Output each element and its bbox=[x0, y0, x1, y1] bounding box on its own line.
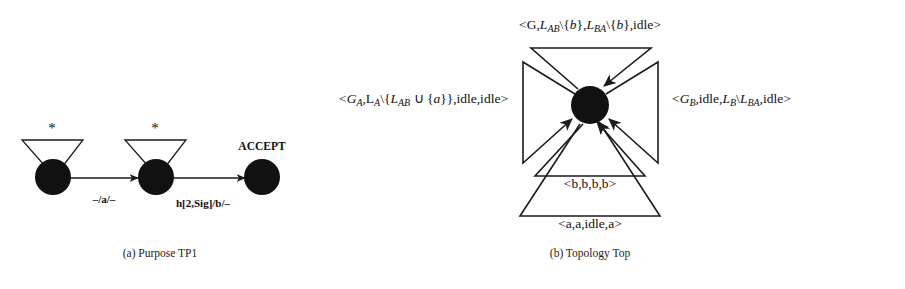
state-node-s1 bbox=[138, 159, 174, 195]
state-node-s2-accept bbox=[244, 159, 280, 195]
transition-label-top: <G,LAB\{b},LBA\{b},idle> bbox=[519, 17, 661, 34]
self-loop-label-state-1: * bbox=[151, 120, 159, 136]
panel-b-topology-top: <G,LAB\{b},LBA\{b},idle> <GA,LA\{LAB ∪ {… bbox=[339, 17, 791, 260]
panel-a-caption: (a) Purpose TP1 bbox=[123, 247, 198, 260]
topology-center-node bbox=[571, 86, 609, 124]
state-node-s0 bbox=[35, 159, 71, 195]
transition-label-left: <GA,LA\{LAB ∪ {a}},idle,idle> bbox=[339, 91, 508, 108]
self-loop-label-state-0: * bbox=[48, 120, 56, 136]
panel-a-purpose-tp1: * * –/a/– h[2,Sig]/b/– ACCEPT (a) bbox=[22, 120, 286, 260]
edge-label-s1-s2: h[2,Sig]/b/– bbox=[176, 197, 231, 209]
transition-label-bottom-inner: <b,b,b,b> bbox=[564, 176, 616, 191]
figure-svg: * * –/a/– h[2,Sig]/b/– ACCEPT (a) bbox=[0, 0, 905, 289]
panel-b-caption: (b) Topology Top bbox=[550, 247, 631, 260]
self-loop-left bbox=[523, 62, 575, 163]
transition-label-bottom-outer: <a,a,idle,a> bbox=[558, 216, 622, 231]
accept-label: ACCEPT bbox=[238, 140, 286, 152]
edge-label-s0-s1: –/a/– bbox=[92, 193, 116, 205]
edge-s0-s1: –/a/– bbox=[70, 178, 138, 205]
transition-label-right: <GB,idle,LB\LBA,idle> bbox=[672, 91, 791, 108]
edge-s1-s2: h[2,Sig]/b/– bbox=[172, 178, 245, 209]
figure-container: * * –/a/– h[2,Sig]/b/– ACCEPT (a) bbox=[0, 0, 905, 289]
self-loop-top bbox=[531, 48, 651, 89]
